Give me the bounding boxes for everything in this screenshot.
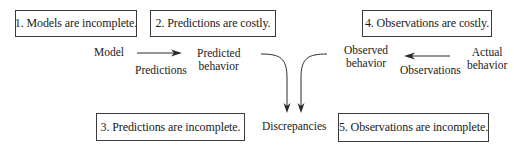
arrow-observed-to-discrepancies-icon xyxy=(298,54,328,113)
edge-label-observations: Observations xyxy=(400,64,461,77)
node-observed-line1: Observed xyxy=(344,44,388,57)
node-model-text: Model xyxy=(94,46,124,58)
node-model: Model xyxy=(94,46,124,59)
box-predictions-costly: 2. Predictions are costly. xyxy=(150,10,276,37)
node-discrepancies: Discrepancies xyxy=(262,120,327,133)
box-models-incomplete: 1. Models are incomplete. xyxy=(15,10,137,37)
box-observations-costly-text: 4. Observations are costly. xyxy=(365,16,489,31)
box-observations-incomplete-text: 5. Observations are incomplete. xyxy=(339,120,488,135)
node-actual-line1: Actual xyxy=(467,46,507,59)
box-models-incomplete-text: 1. Models are incomplete. xyxy=(15,16,137,31)
node-predicted-behavior: Predicted behavior xyxy=(197,47,240,73)
box-observations-costly: 4. Observations are costly. xyxy=(362,10,492,37)
arrow-model-to-predicted-icon xyxy=(137,50,182,57)
arrow-actual-to-observed-icon xyxy=(404,53,450,60)
edge-label-predictions: Predictions xyxy=(135,64,187,77)
node-observed-behavior: Observed behavior xyxy=(344,44,388,70)
edge-label-observations-text: Observations xyxy=(400,64,461,76)
edge-label-predictions-text: Predictions xyxy=(135,64,187,76)
box-predictions-incomplete: 3. Predictions are incomplete. xyxy=(96,113,245,141)
box-observations-incomplete: 5. Observations are incomplete. xyxy=(338,113,489,142)
box-predictions-incomplete-text: 3. Predictions are incomplete. xyxy=(101,120,241,135)
arrow-predicted-to-discrepancies-icon xyxy=(261,54,291,113)
box-predictions-costly-text: 2. Predictions are costly. xyxy=(156,16,271,31)
node-actual-behavior: Actual behavior xyxy=(467,46,507,72)
node-observed-line2: behavior xyxy=(344,57,388,70)
node-actual-line2: behavior xyxy=(467,59,507,72)
node-predicted-line1: Predicted xyxy=(197,47,240,60)
node-discrepancies-text: Discrepancies xyxy=(262,120,327,132)
node-predicted-line2: behavior xyxy=(197,60,240,73)
